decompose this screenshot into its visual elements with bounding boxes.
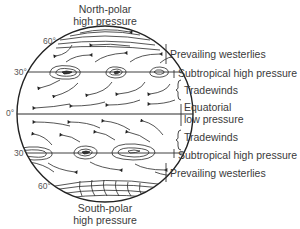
globe-diagram xyxy=(0,0,300,229)
zone-label-tradewinds-north: Tradewinds xyxy=(184,85,238,96)
zone-label-subtropical-high-south: Subtropical high pressure xyxy=(178,150,297,161)
south-polar-title-line2: high pressure xyxy=(45,215,165,227)
south-polar-title-line1: South-polar xyxy=(45,203,165,215)
north-tradewind-arrows xyxy=(35,80,175,108)
south-polar-front xyxy=(52,180,162,198)
latitude-label-0: 0° xyxy=(6,108,14,118)
south-polar-title: South-polar high pressure xyxy=(45,203,165,226)
zone-label-prevailing-westerlies-south: Prevailing westerlies xyxy=(170,168,266,179)
south-westerly-arrows xyxy=(29,162,180,176)
latitude-label-60n: 60° xyxy=(43,36,56,46)
north-polar-title: North-polar high pressure xyxy=(45,4,165,27)
north-polar-title-line2: high pressure xyxy=(45,16,165,28)
zone-label-equatorial: Equatorial xyxy=(184,102,231,113)
zone-label-prevailing-westerlies-north: Prevailing westerlies xyxy=(170,49,266,60)
south-tradewind-arrows xyxy=(34,121,163,145)
north-westerly-arrows xyxy=(56,45,178,63)
north-polar-title-line1: North-polar xyxy=(45,4,165,16)
zone-label-subtropical-high-north: Subtropical high pressure xyxy=(178,68,297,79)
zone-label-equatorial-low: low pressure xyxy=(184,114,244,125)
latitude-label-30n: 30° xyxy=(14,67,27,77)
zone-label-tradewinds-south: Tradewinds xyxy=(184,132,238,143)
latitude-label-30s: 30° xyxy=(14,148,27,158)
latitude-label-60s: 60° xyxy=(38,181,51,191)
south-subtropical-highs xyxy=(14,144,155,160)
